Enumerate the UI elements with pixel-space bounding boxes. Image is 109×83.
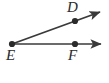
point-label-D: D bbox=[67, 0, 78, 15]
geometry-figure: D E F bbox=[0, 0, 109, 83]
ray-ED bbox=[12, 12, 100, 44]
point-D-dot bbox=[72, 18, 78, 24]
point-label-F: F bbox=[68, 48, 77, 63]
geometry-canvas bbox=[0, 0, 109, 83]
point-label-E: E bbox=[6, 48, 15, 63]
